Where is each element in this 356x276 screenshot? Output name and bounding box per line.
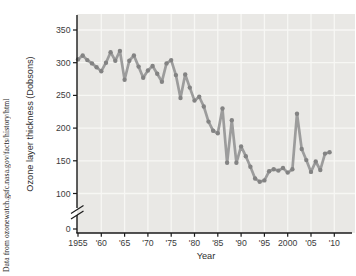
- data-point: [295, 112, 299, 116]
- x-tick-label: '85: [212, 238, 223, 248]
- x-tick-label: '80: [189, 238, 200, 248]
- data-point: [304, 158, 308, 162]
- data-point: [216, 131, 220, 135]
- data-point: [155, 72, 159, 76]
- data-point: [141, 76, 145, 80]
- data-point: [183, 72, 187, 76]
- x-tick-label: '10: [329, 238, 340, 248]
- data-point: [272, 167, 276, 171]
- data-point: [188, 85, 192, 89]
- data-point: [164, 61, 168, 65]
- data-point: [211, 129, 215, 133]
- data-point: [258, 180, 262, 184]
- data-point: [178, 96, 182, 100]
- data-point: [262, 178, 266, 182]
- x-tick-label: 1955: [68, 238, 87, 248]
- data-point: [286, 170, 290, 174]
- data-point: [225, 161, 229, 165]
- y-tick-label: 350: [56, 25, 71, 35]
- data-point: [118, 49, 122, 53]
- data-point: [192, 98, 196, 102]
- data-point: [136, 64, 140, 68]
- y-tick-label: 150: [56, 156, 71, 166]
- data-point: [169, 58, 173, 62]
- data-point: [281, 166, 285, 170]
- data-point: [276, 168, 280, 172]
- data-point: [85, 58, 89, 62]
- data-point: [122, 78, 126, 82]
- y-axis-label: Ozone layer thickness (Dobsons): [25, 56, 35, 191]
- data-point: [150, 64, 154, 68]
- data-point: [94, 65, 98, 69]
- x-tick-label: '60: [96, 238, 107, 248]
- data-point: [81, 53, 85, 57]
- x-tick-label: '70: [142, 238, 153, 248]
- data-point: [267, 169, 271, 173]
- y-tick-label: 250: [56, 90, 71, 100]
- data-point: [202, 104, 206, 108]
- data-point: [99, 69, 103, 73]
- data-point: [206, 119, 210, 123]
- data-point: [248, 165, 252, 169]
- data-point: [104, 61, 108, 65]
- data-point: [197, 95, 201, 99]
- data-point: [318, 168, 322, 172]
- data-point: [290, 167, 294, 171]
- x-tick-label: '95: [259, 238, 270, 248]
- plot-background: [77, 14, 355, 233]
- y-tick-label: 300: [56, 58, 71, 68]
- data-point: [113, 59, 117, 63]
- data-point: [174, 73, 178, 77]
- data-point: [327, 150, 331, 154]
- data-point: [108, 50, 112, 54]
- x-tick-label: 2000: [278, 238, 297, 248]
- data-point: [234, 161, 238, 165]
- data-point: [127, 59, 131, 63]
- x-tick-label: '75: [166, 238, 177, 248]
- data-point: [160, 80, 164, 84]
- x-axis-label: Year: [197, 251, 216, 261]
- plot-background-layer: [77, 14, 355, 233]
- data-point: [146, 68, 150, 72]
- data-point: [323, 151, 327, 155]
- data-point: [300, 147, 304, 151]
- data-point: [239, 144, 243, 148]
- x-tick-label: '90: [235, 238, 246, 248]
- x-tick-label: '05: [305, 238, 316, 248]
- data-point: [314, 159, 318, 163]
- data-point: [244, 154, 248, 158]
- data-point: [253, 176, 257, 180]
- data-point: [90, 61, 94, 65]
- data-point: [230, 118, 234, 122]
- y-tick-label: 0: [66, 224, 71, 234]
- y-tick-label: 100: [56, 189, 71, 199]
- data-point: [309, 170, 313, 174]
- data-point: [220, 106, 224, 110]
- x-tick-label: '65: [119, 238, 130, 248]
- data-point: [132, 53, 136, 57]
- y-tick-label: 200: [56, 123, 71, 133]
- ozone-chart-svg: 35030025020015010001955'60'65'70'75'80'8…: [0, 0, 356, 276]
